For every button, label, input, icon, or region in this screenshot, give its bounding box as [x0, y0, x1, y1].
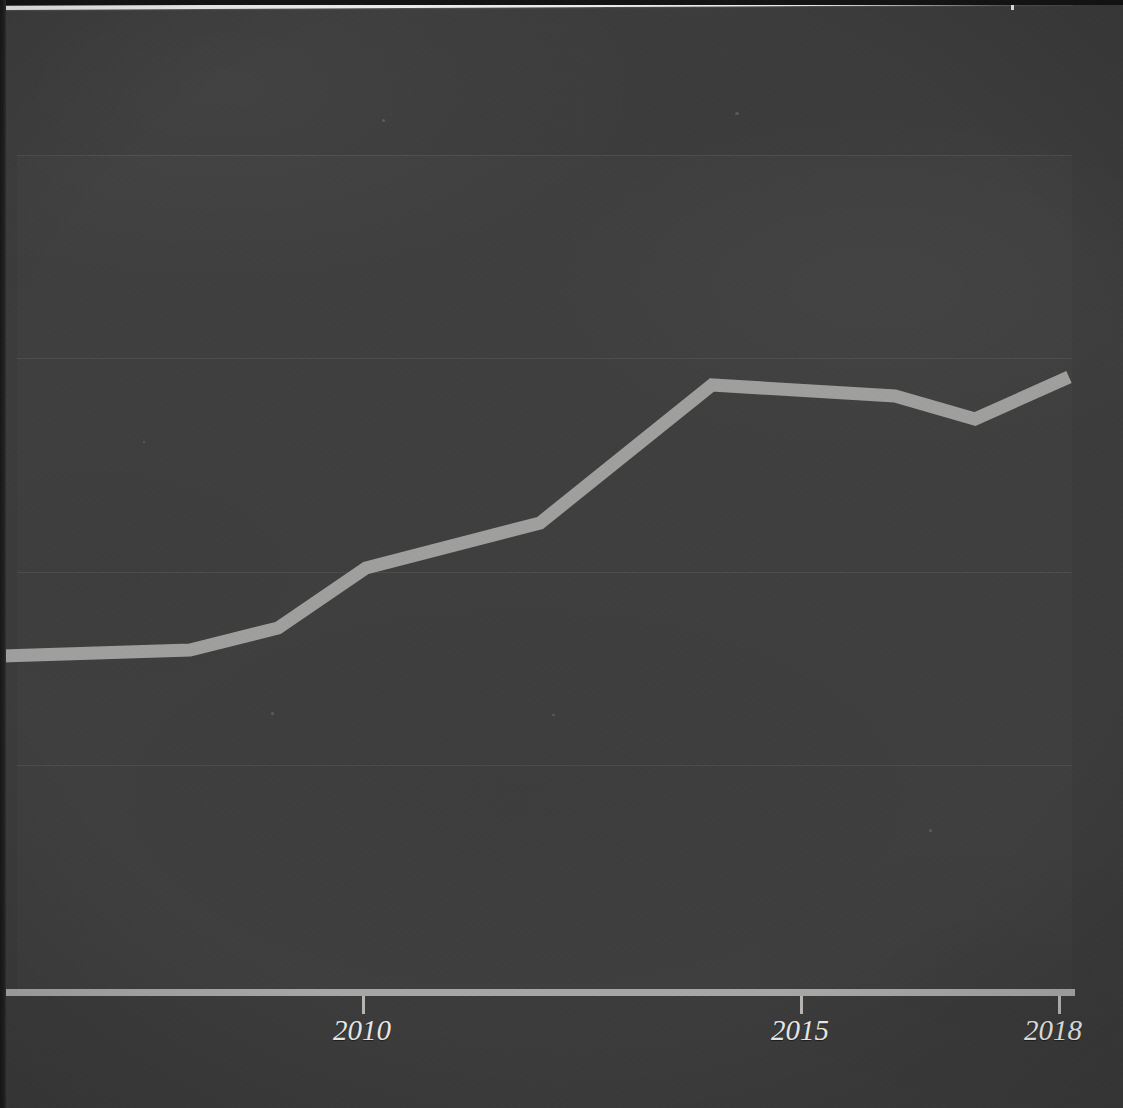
scan-edge-top: [0, 0, 1123, 5]
x-axis-label-2010: 2010: [333, 1016, 391, 1045]
x-axis-line: [6, 989, 1075, 996]
x-axis-label-2018: 2018: [1024, 1016, 1082, 1045]
gridline-3: [17, 572, 1072, 573]
gridline-4: [17, 765, 1072, 766]
gridline-1: [17, 155, 1072, 156]
x-axis-label-2015: 2015: [771, 1016, 829, 1045]
x-tick-2015: [800, 996, 803, 1014]
x-tick-2010: [362, 996, 365, 1014]
scan-edge-left: [0, 0, 6, 1108]
plot-panel: [17, 155, 1072, 995]
gridline-2: [17, 358, 1072, 359]
scanned-figure-page: 2010 2015 2018: [0, 0, 1123, 1108]
x-tick-2018: [1058, 996, 1061, 1014]
